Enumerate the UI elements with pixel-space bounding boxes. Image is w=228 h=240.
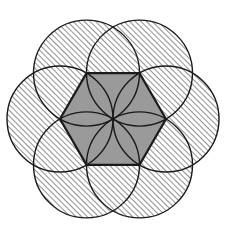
figure-canvas [0, 0, 228, 240]
geometric-diagram [0, 0, 228, 240]
